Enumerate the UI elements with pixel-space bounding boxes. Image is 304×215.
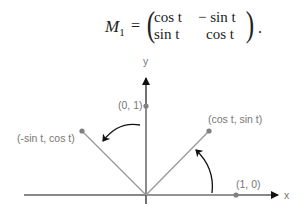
- rotation-arrow-right-icon: [196, 150, 212, 193]
- y-axis-label: y: [143, 55, 148, 67]
- label-cos-sin: (cos t, sin t): [208, 113, 262, 125]
- point-cos-sin: [206, 128, 211, 133]
- point-1-0: [233, 192, 238, 197]
- vector-cos-sin: [146, 131, 209, 195]
- x-axis-label: x: [284, 189, 289, 201]
- rotation-diagram: M1 = ( cos t− sin t sin tcos t ) .: [0, 0, 304, 215]
- point-0-1: [143, 103, 148, 108]
- point-negsin-cos: [79, 128, 84, 133]
- vector-negsin-cos: [82, 131, 146, 195]
- rotation-arrow-left-icon: [103, 124, 140, 141]
- label-0-1: (0, 1): [118, 99, 143, 111]
- label-negsin-cos: (-sin t, cos t): [17, 132, 75, 144]
- label-1-0: (1, 0): [236, 178, 261, 190]
